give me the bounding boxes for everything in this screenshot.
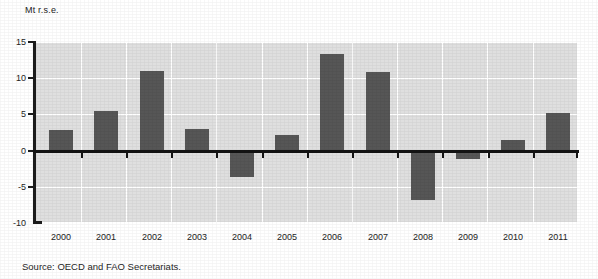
y-axis-unit-caption: Mt r.s.e.	[25, 5, 59, 15]
x-tick-6	[307, 153, 309, 158]
bar-2003	[185, 129, 209, 151]
gridline-x-3	[171, 42, 172, 223]
gridline-x-4	[216, 42, 217, 223]
x-tick-label-2010: 2010	[503, 232, 523, 242]
gridline-x-10	[487, 42, 488, 223]
y-tick-label-10: 10	[0, 73, 26, 83]
y-tick-15	[28, 41, 36, 43]
gridline-x-11	[533, 42, 534, 223]
y-tick-5	[28, 113, 36, 115]
x-tick-label-2007: 2007	[368, 232, 388, 242]
y-tick-minus10	[33, 221, 42, 224]
x-tick-8	[397, 153, 399, 158]
x-tick-label-2005: 2005	[277, 232, 297, 242]
bar-2004	[230, 151, 254, 177]
x-tick-label-2009: 2009	[458, 232, 478, 242]
x-tick-label-2002: 2002	[142, 232, 162, 242]
x-tick-4	[216, 153, 218, 158]
x-tick-2	[126, 153, 128, 158]
x-tick-label-2000: 2000	[51, 232, 71, 242]
y-axis-line	[33, 41, 36, 224]
x-tick-7	[352, 153, 354, 158]
y-tick-label-15: 15	[0, 37, 26, 47]
gridline-x-8	[397, 42, 398, 223]
x-tick-label-2004: 2004	[232, 232, 252, 242]
gridline-x-5	[262, 42, 263, 223]
y-tick-label-minus5: -5	[0, 182, 26, 192]
bar-2006	[320, 54, 344, 150]
bar-2002	[140, 71, 164, 151]
x-tick-1	[81, 153, 83, 158]
gridline-x-1	[81, 42, 82, 223]
x-tick-11	[533, 153, 535, 158]
x-tick-10	[488, 153, 490, 158]
plot-area	[36, 42, 578, 223]
x-tick-label-2003: 2003	[187, 232, 207, 242]
bar-2000	[49, 130, 73, 151]
bar-2010	[501, 140, 525, 151]
gridline-x-7	[352, 42, 353, 223]
x-tick-label-2001: 2001	[96, 232, 116, 242]
x-tick-3	[171, 153, 173, 158]
source-note: Source: OECD and FAO Secretariats.	[22, 261, 181, 272]
x-tick-label-2011: 2011	[548, 232, 567, 242]
bar-2005	[275, 135, 299, 150]
y-tick-10	[28, 77, 36, 79]
gridline-x-6	[307, 42, 308, 223]
bar-2011	[546, 113, 570, 151]
gridline-x-12	[577, 42, 578, 223]
x-tick-label-2006: 2006	[322, 232, 342, 242]
x-tick-5	[262, 153, 264, 158]
zero-baseline	[33, 150, 579, 153]
y-tick-label-minus10: -10	[0, 218, 26, 228]
bar-2008	[411, 151, 435, 200]
gridline-x-2	[126, 42, 127, 223]
bar-2007	[366, 72, 390, 150]
bar-2001	[94, 111, 118, 151]
y-tick-label-5: 5	[0, 109, 26, 119]
y-tick-minus5	[28, 186, 36, 188]
chart-figure: Mt r.s.e.	[0, 0, 598, 279]
x-tick-label-2008: 2008	[413, 232, 433, 242]
gridline-x-9	[442, 42, 443, 223]
x-tick-12	[576, 153, 578, 158]
x-tick-9	[442, 153, 444, 158]
y-tick-label-0: 0	[0, 146, 26, 156]
